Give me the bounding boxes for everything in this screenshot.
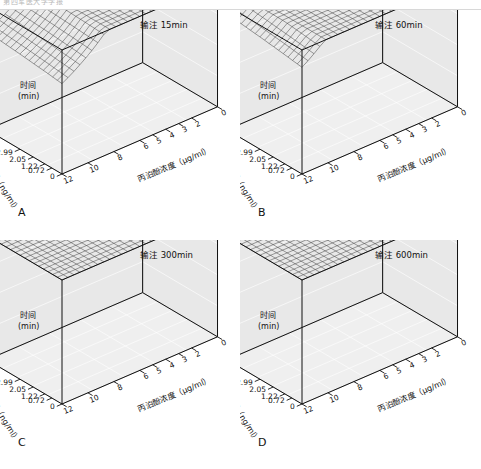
z-axis-title-unit: (min) [258,92,279,101]
x-tick-label: 6 [142,141,150,151]
y-tick [297,174,302,176]
x-tick-label: 10 [328,393,341,405]
panel-title-c: 输注 300min [140,248,193,260]
y-tick [287,168,292,170]
panel-title-a: 输注 15min [140,18,188,30]
x-tick-label: 2 [434,349,442,359]
panel-title-b: 输注 60min [375,18,423,30]
x-tick-label: 12 [302,404,315,416]
y-tick-label: 0 [50,402,55,411]
x-tick-label: 4 [408,130,416,140]
y-tick-label: 2.05 [9,385,26,394]
panel-letter-a: A [18,206,26,219]
page-header-text: 第四军医大学学报 [3,0,63,6]
y-tick-label: 2.99 [240,148,253,157]
y-tick-label: 2.99 [0,148,13,157]
x-tick-label: 8 [116,152,124,162]
x-tick-label: 6 [382,141,390,151]
x-tick-label: 4 [168,360,176,370]
x-tick-label: 3 [421,354,429,364]
x-tick-label: 8 [356,152,364,162]
x-tick-label: 5 [395,136,403,146]
x-tick-label: 8 [356,382,364,392]
y-tick [297,404,302,406]
y-tick-label: 2.05 [249,155,266,164]
x-tick-label: 4 [168,130,176,140]
y-tick [268,157,273,159]
x-tick-label: 0 [460,338,468,348]
plot-panel-b: 403020100时间(min)12108654320丙泊酚浓度（μg/ml）0… [240,10,480,239]
y-tick-label: 0 [290,402,295,411]
x-tick-label: 10 [328,163,341,175]
x-tick-label: 10 [88,163,101,175]
x-tick-label: 0 [220,108,228,118]
z-axis-title-unit: (min) [258,322,279,331]
y-tick [28,157,33,159]
y-tick-label: 2.05 [249,385,266,394]
x-tick-label: 5 [155,366,163,376]
z-axis-title: 时间 [20,80,36,90]
y-tick [255,379,260,381]
x-tick-label: 8 [116,382,124,392]
y-tick [15,379,20,381]
x-tick-label: 12 [302,174,315,186]
y-tick [57,174,62,176]
plot-svg-d: 403020100时间(min)12108654320丙泊酚浓度（μg/ml）0… [240,240,480,469]
plot-panel-a: 403020100时间(min)12108654320丙泊酚浓度（μg/ml）0… [0,10,240,239]
x-tick-label: 0 [220,338,228,348]
x-tick-label: 5 [395,366,403,376]
y-tick [47,168,52,170]
panel-title-d: 输注 600min [375,248,428,260]
plot-svg-c: 403020100时间(min)12108654320丙泊酚浓度（μg/ml）0… [0,240,240,469]
x-tick-label: 3 [181,354,189,364]
x-tick-label: 3 [181,124,189,134]
x-tick-label: 6 [382,371,390,381]
y-tick [57,404,62,406]
z-axis-title-unit: (min) [18,92,39,101]
figure-root: 第四军医大学学报 403020100时间(min)12108654320丙泊酚浓… [0,0,481,469]
x-tick-label: 12 [62,174,75,186]
panel-letter-c: C [18,436,26,449]
z-axis-title: 时间 [20,310,36,320]
y-tick [287,398,292,400]
plot-svg-a: 403020100时间(min)12108654320丙泊酚浓度（μg/ml）0… [0,10,240,239]
x-tick-label: 2 [434,119,442,129]
z-axis-title: 时间 [260,80,276,90]
y-tick [15,149,20,151]
y-tick-label: 0 [50,172,55,181]
y-tick-label: 0 [290,172,295,181]
z-axis-title-unit: (min) [18,322,39,331]
y-tick-label: 2.05 [9,155,26,164]
y-tick-label: 2.99 [240,378,253,387]
plot-panel-c: 403020100时间(min)12108654320丙泊酚浓度（μg/ml）0… [0,240,240,469]
x-tick-label: 0 [460,108,468,118]
x-tick-label: 3 [421,124,429,134]
plot-svg-b: 403020100时间(min)12108654320丙泊酚浓度（μg/ml）0… [240,10,480,239]
z-axis-title: 时间 [260,310,276,320]
y-tick [268,387,273,389]
y-tick [47,398,52,400]
x-tick-label: 2 [194,119,202,129]
x-tick-label: 5 [155,136,163,146]
y-tick-label: 2.99 [0,378,13,387]
x-tick-label: 4 [408,360,416,370]
x-tick-label: 10 [88,393,101,405]
x-tick-label: 2 [194,349,202,359]
panel-letter-d: D [258,436,266,449]
x-tick-label: 6 [142,371,150,381]
y-tick [255,149,260,151]
x-tick-label: 12 [62,404,75,416]
y-tick [28,387,33,389]
plot-panel-d: 403020100时间(min)12108654320丙泊酚浓度（μg/ml）0… [240,240,480,469]
panel-letter-b: B [258,206,266,219]
page-header-strip: 第四军医大学学报 [0,0,481,10]
